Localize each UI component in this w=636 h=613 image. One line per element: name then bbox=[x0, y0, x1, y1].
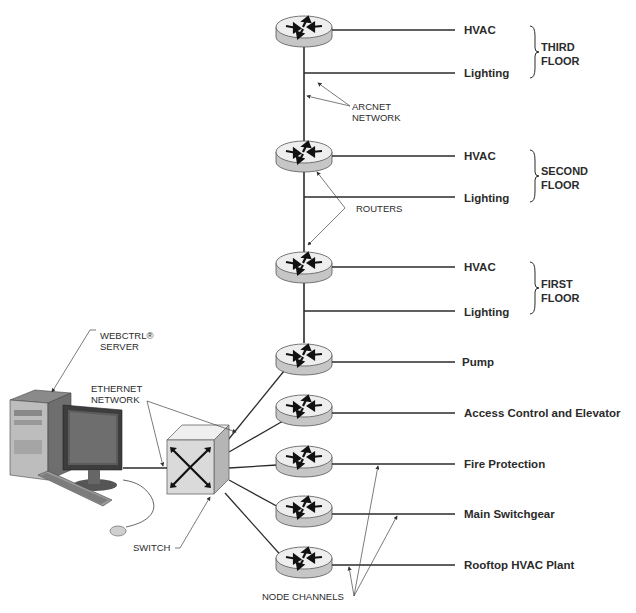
system-routers: Pump Access Control and Elevator Fire Pr… bbox=[276, 344, 621, 578]
device-label: HVAC bbox=[464, 261, 496, 273]
system-label: Rooftop HVAC Plant bbox=[464, 559, 574, 571]
router-icon bbox=[276, 395, 332, 426]
device-label: HVAC bbox=[464, 24, 496, 36]
callout-arcnet: ARCNET NETWORK bbox=[307, 83, 401, 123]
server-computer-icon bbox=[10, 390, 154, 536]
router-icon bbox=[276, 496, 332, 527]
network-diagram: HVAC Lighting THIRD FLOOR HVAC Lighting … bbox=[0, 0, 636, 613]
router-icon bbox=[276, 252, 332, 283]
floor-label: FLOOR bbox=[541, 292, 580, 304]
router-icon bbox=[276, 446, 332, 477]
router-icon bbox=[276, 344, 332, 375]
floor-label: FLOOR bbox=[541, 55, 580, 67]
switch-icon bbox=[167, 425, 229, 494]
brace-icon bbox=[530, 26, 539, 78]
router-icon bbox=[276, 547, 332, 578]
svg-text:NODE CHANNELS: NODE CHANNELS bbox=[262, 591, 344, 602]
callout-routers: ROUTERS bbox=[308, 172, 402, 245]
svg-text:SWITCH: SWITCH bbox=[133, 542, 171, 553]
floor-label: THIRD bbox=[541, 41, 575, 53]
device-label: Lighting bbox=[464, 306, 509, 318]
callout-switch: SWITCH bbox=[133, 497, 210, 553]
svg-text:WEBCTRL®: WEBCTRL® bbox=[100, 330, 153, 341]
svg-text:NETWORK: NETWORK bbox=[91, 394, 140, 405]
brace-icon bbox=[530, 262, 539, 314]
device-label: Lighting bbox=[464, 192, 509, 204]
brace-icon bbox=[530, 150, 539, 202]
svg-text:ARCNET: ARCNET bbox=[352, 101, 391, 112]
router-icon bbox=[276, 16, 332, 47]
floor-label: FIRST bbox=[541, 278, 573, 290]
floor-label: FLOOR bbox=[541, 179, 580, 191]
svg-text:NETWORK: NETWORK bbox=[352, 112, 401, 123]
floor-group-first: HVAC Lighting FIRST FLOOR bbox=[276, 252, 580, 318]
router-icon bbox=[276, 141, 332, 172]
device-label: Lighting bbox=[464, 67, 509, 79]
svg-text:SERVER: SERVER bbox=[100, 341, 139, 352]
system-label: Main Switchgear bbox=[464, 508, 555, 520]
system-label: Pump bbox=[462, 356, 494, 368]
floor-group-third: HVAC Lighting THIRD FLOOR bbox=[276, 16, 580, 79]
floor-label: SECOND bbox=[541, 165, 588, 177]
callout-node-channels: NODE CHANNELS bbox=[262, 466, 397, 602]
system-label: Access Control and Elevator bbox=[464, 407, 621, 419]
device-label: HVAC bbox=[464, 150, 496, 162]
svg-text:ROUTERS: ROUTERS bbox=[356, 203, 402, 214]
floor-group-second: HVAC Lighting SECOND FLOOR bbox=[276, 141, 588, 204]
system-label: Fire Protection bbox=[464, 458, 545, 470]
svg-text:ETHERNET: ETHERNET bbox=[91, 383, 142, 394]
